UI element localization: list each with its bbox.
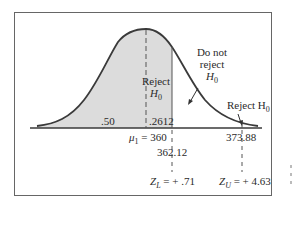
- reject-right-label: Reject H0: [227, 99, 270, 116]
- mu-value: = 360: [139, 131, 167, 143]
- do-not-reject-arrow: [190, 88, 198, 102]
- h-subscript: 0: [158, 93, 162, 102]
- reject-center-line2: H0: [135, 87, 177, 104]
- do-not-reject-label: Do not reject H0: [190, 46, 234, 87]
- h-subscript: 0: [266, 105, 270, 114]
- z-upper-label: ZU = + 4.63: [219, 175, 271, 192]
- area-middle-label: .2612: [149, 115, 174, 127]
- z-upper-value: = + 4.63: [231, 175, 271, 187]
- reject-center-label: Reject H0: [135, 75, 177, 104]
- do-not-reject-line1: Do not: [190, 46, 234, 58]
- h-symbol: H: [150, 87, 158, 99]
- do-not-reject-arrowhead: [188, 99, 193, 105]
- reject-right-text: Reject H: [227, 99, 266, 111]
- z-lower-value: = + .71: [161, 175, 195, 187]
- reject-center-line1: Reject: [135, 75, 177, 87]
- z-lower-label: ZL = + .71: [150, 175, 195, 192]
- upper-critical-value: 373.88: [226, 131, 256, 143]
- h-subscript: 0: [214, 76, 218, 85]
- area-left-label: .50: [101, 115, 115, 127]
- edge-marks: [290, 165, 293, 200]
- h-symbol: H: [206, 70, 214, 82]
- do-not-reject-line2: reject: [190, 58, 234, 70]
- lower-critical-value: 362.12: [157, 146, 187, 158]
- do-not-reject-line3: H0: [190, 70, 234, 87]
